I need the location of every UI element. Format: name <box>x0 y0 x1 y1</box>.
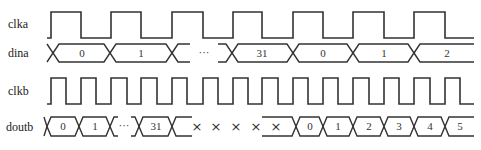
doutb-undefined-4: × <box>251 119 262 134</box>
signal-label-clka: clka <box>8 17 29 31</box>
dina-value-0: 0 <box>79 47 85 59</box>
dina-ellipsis: ··· <box>199 46 210 58</box>
doutb-undefined-3: × <box>231 119 242 134</box>
signal-label-dina: dina <box>8 46 29 60</box>
doutb-value-w2: 2 <box>366 120 372 132</box>
doutb-undefined-5: × <box>271 119 282 134</box>
signal-label-clkb: clkb <box>8 84 29 98</box>
clka-waveform <box>47 12 474 38</box>
doutb-value-1: 1 <box>92 120 98 132</box>
doutb-undefined-2: × <box>211 119 222 134</box>
doutb-value-0: 0 <box>60 120 66 132</box>
dina-value-1b: 1 <box>381 47 387 59</box>
doutb-value-w0: 0 <box>307 120 313 132</box>
timing-diagram: clka dina clkb doutb 0 1 ··· 31 0 1 2 <box>0 0 481 150</box>
dina-value-2b: 2 <box>444 47 450 59</box>
doutb-value-w1: 1 <box>335 120 341 132</box>
doutb-value-31: 31 <box>151 120 162 132</box>
doutb-ellipsis: ··· <box>119 119 130 131</box>
doutb-value-w4: 4 <box>427 120 433 132</box>
doutb-value-w5: 5 <box>457 120 463 132</box>
dina-value-31: 31 <box>257 47 268 59</box>
clkb-waveform <box>47 78 474 104</box>
dina-value-1: 1 <box>138 47 144 59</box>
dina-value-0b: 0 <box>320 47 326 59</box>
signal-label-doutb: doutb <box>6 120 33 134</box>
doutb-value-w3: 3 <box>396 120 402 132</box>
doutb-undefined-1: × <box>192 119 203 134</box>
